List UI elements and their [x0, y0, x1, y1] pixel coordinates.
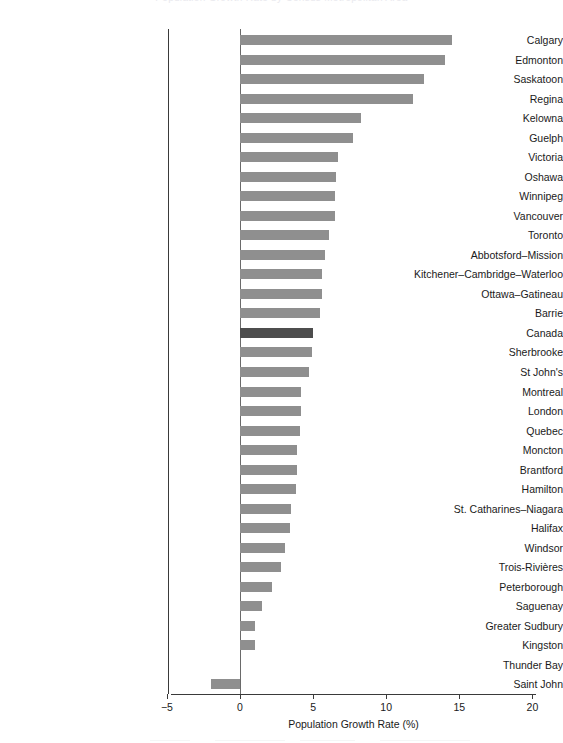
- x-axis-tick: [459, 694, 460, 699]
- bar: [240, 133, 353, 143]
- bar: [240, 445, 297, 455]
- bar: [240, 504, 291, 514]
- bar-chart-plot-area: −505101520 CalgaryEdmontonSaskatoonRegin…: [0, 0, 563, 743]
- category-label: Toronto: [399, 230, 563, 241]
- bar: [240, 289, 322, 299]
- category-label: Hamilton: [399, 484, 563, 495]
- bar: [240, 74, 424, 84]
- category-label: Regina: [399, 93, 563, 104]
- category-label: Winnipeg: [399, 191, 563, 202]
- bar: [240, 230, 329, 240]
- bar-highlighted: [240, 328, 313, 338]
- category-label: Canada: [399, 328, 563, 339]
- bar: [240, 621, 255, 631]
- scan-edge-artifact: [0, 737, 563, 743]
- x-axis-tick: [313, 694, 314, 699]
- bar: [240, 406, 301, 416]
- bar: [240, 211, 335, 221]
- bar: [240, 367, 309, 377]
- category-label: Vancouver: [399, 211, 563, 222]
- bar: [240, 543, 285, 553]
- bar: [240, 308, 320, 318]
- category-label: Ottawa–Gatineau: [399, 289, 563, 300]
- category-label: Saint John: [399, 679, 563, 690]
- bar: [240, 562, 281, 572]
- bar: [240, 191, 335, 201]
- category-label: Windsor: [399, 543, 563, 554]
- x-axis-tick: [167, 694, 168, 699]
- x-axis-tick-label: 15: [453, 701, 465, 713]
- x-axis-line: [171, 694, 536, 695]
- bar: [211, 679, 240, 689]
- x-axis-tick-label: 10: [380, 701, 392, 713]
- y-axis-line: [168, 29, 169, 694]
- category-label: Thunder Bay: [399, 660, 563, 671]
- x-axis-tick: [532, 694, 533, 699]
- bar: [240, 484, 296, 494]
- category-label: Sherbrooke: [399, 347, 563, 358]
- bar: [240, 640, 255, 650]
- bar: [240, 94, 413, 104]
- bar: [240, 250, 325, 260]
- category-label: Brantford: [399, 464, 563, 475]
- bar: [240, 269, 322, 279]
- bar: [240, 152, 338, 162]
- category-label: Saguenay: [399, 601, 563, 612]
- bar: [240, 35, 452, 45]
- bar: [240, 601, 262, 611]
- category-label: Kitchener–Cambridge–Waterloo: [399, 269, 563, 280]
- category-label: St. Catharines–Niagara: [399, 503, 563, 514]
- x-axis-tick-label: 20: [527, 701, 539, 713]
- category-label: Peterborough: [399, 582, 563, 593]
- category-label: Barrie: [399, 308, 563, 319]
- category-label: Montreal: [399, 386, 563, 397]
- category-label: London: [399, 406, 563, 417]
- bar: [240, 523, 290, 533]
- bar: [240, 582, 272, 592]
- bar: [240, 465, 297, 475]
- x-axis-tick-label: 0: [237, 701, 243, 713]
- zero-baseline: [240, 29, 241, 694]
- x-axis-tick-label: 5: [310, 701, 316, 713]
- category-label: Guelph: [399, 132, 563, 143]
- category-label: Kelowna: [399, 113, 563, 124]
- category-label: Moncton: [399, 445, 563, 456]
- x-axis-tick: [240, 694, 241, 699]
- category-label: Halifax: [399, 523, 563, 534]
- bar: [240, 347, 312, 357]
- x-axis-tick: [386, 694, 387, 699]
- bar: [240, 172, 336, 182]
- category-label: Trois-Rivières: [399, 562, 563, 573]
- bar: [240, 387, 301, 397]
- category-label: St John's: [399, 367, 563, 378]
- x-axis-title: Population Growth Rate (%): [171, 718, 536, 730]
- chart-figure: Population Growth Rate by Census Metropo…: [0, 0, 563, 743]
- bar: [240, 55, 445, 65]
- bar: [240, 426, 300, 436]
- category-label: Quebec: [399, 425, 563, 436]
- category-label: Greater Sudbury: [399, 621, 563, 632]
- category-label: Oshawa: [399, 171, 563, 182]
- category-label: Victoria: [399, 152, 563, 163]
- x-axis-tick-label: −5: [161, 701, 173, 713]
- category-label: Kingston: [399, 640, 563, 651]
- category-label: Abbotsford–Mission: [399, 250, 563, 261]
- bar: [240, 113, 361, 123]
